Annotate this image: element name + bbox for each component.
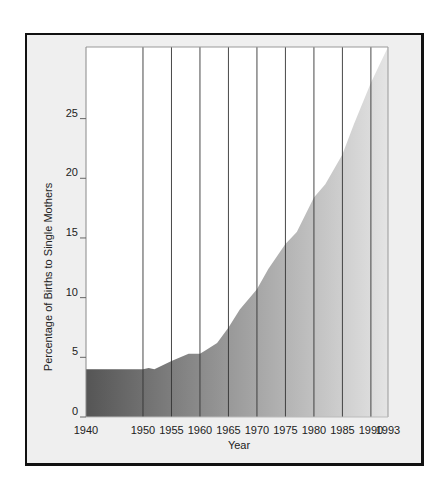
y-tick-label: 5 bbox=[72, 345, 78, 357]
x-axis-title: Year bbox=[228, 439, 251, 451]
y-tick-label: 25 bbox=[66, 107, 78, 119]
x-tick-label: 1960 bbox=[188, 424, 212, 436]
x-tick-label: 1975 bbox=[273, 424, 297, 436]
x-tick-label: 1985 bbox=[330, 424, 354, 436]
x-tick-label: 1970 bbox=[245, 424, 269, 436]
x-tick-label: 1965 bbox=[216, 424, 240, 436]
y-tick-label: 15 bbox=[66, 226, 78, 238]
y-axis-title: Percentage of Births to Single Mothers bbox=[42, 182, 54, 371]
y-tick-label: 0 bbox=[72, 405, 78, 417]
x-tick-label: 1940 bbox=[74, 424, 98, 436]
x-tick-label: 1955 bbox=[159, 424, 183, 436]
x-tick-label: 1980 bbox=[302, 424, 326, 436]
x-tick-label: 1950 bbox=[131, 424, 155, 436]
y-tick-label: 20 bbox=[66, 166, 78, 178]
y-tick-label: 10 bbox=[66, 286, 78, 298]
x-tick-label: 1993 bbox=[376, 424, 400, 436]
area-chart: 0510152025194019501955196019651970197519… bbox=[0, 0, 444, 489]
